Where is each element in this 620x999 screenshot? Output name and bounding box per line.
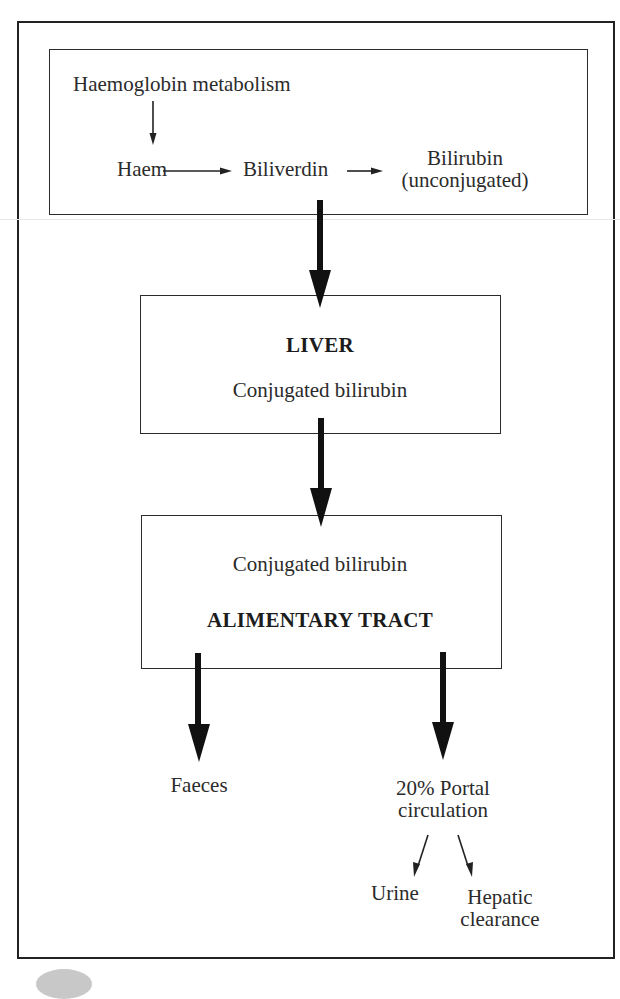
thick-arrow-down-icon	[310, 418, 332, 527]
thick-arrow-down-icon	[432, 652, 454, 760]
biliverdin-to-bilirubin-arrow-icon	[315, 171, 350, 172]
thin-arrow-right-icon	[163, 168, 232, 175]
thin-arrow-down-right-icon	[458, 835, 473, 877]
thin-arrow-down-icon	[150, 101, 157, 145]
thick-arrow-down-icon	[188, 653, 210, 762]
thin-arrow-down-left-icon	[413, 835, 428, 877]
visible-arrow-biliverdin-bilirubin-icon	[347, 168, 383, 175]
thin-arrow-right-icon	[317, 170, 349, 171]
thick-arrow-down-icon	[309, 200, 331, 308]
scan-artifact	[36, 969, 92, 999]
